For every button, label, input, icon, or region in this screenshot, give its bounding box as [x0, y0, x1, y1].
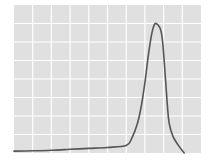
line-chart [0, 0, 211, 162]
